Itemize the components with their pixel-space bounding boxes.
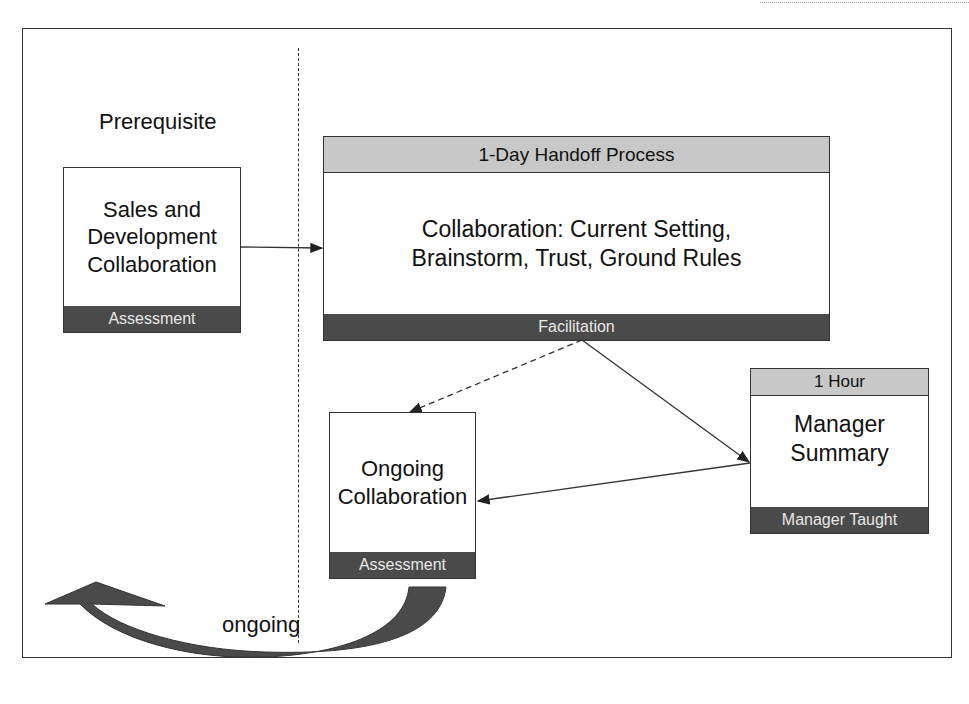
arrow-manager-to-ongoing <box>478 463 750 501</box>
arrow-handoff-to-manager <box>582 340 749 462</box>
arrow-handoff-to-ongoing <box>410 340 582 412</box>
arrow-sales-to-handoff <box>241 247 322 248</box>
ongoing-label: ongoing <box>222 612 300 638</box>
connectors <box>0 0 969 704</box>
